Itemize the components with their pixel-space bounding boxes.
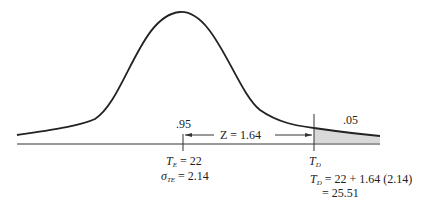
left-area-label: .95: [176, 117, 191, 131]
td-result: = 25.51: [322, 186, 359, 200]
sigma-te-label: σTE = 2.14: [161, 169, 209, 187]
right-area-label: .05: [343, 113, 358, 127]
arrowhead-left-icon: [185, 133, 192, 137]
bell-curve: [17, 12, 380, 136]
td-label: TD: [309, 154, 321, 172]
z-value-label: Z = 1.64: [220, 128, 261, 142]
arrowhead-right-icon: [305, 133, 312, 137]
